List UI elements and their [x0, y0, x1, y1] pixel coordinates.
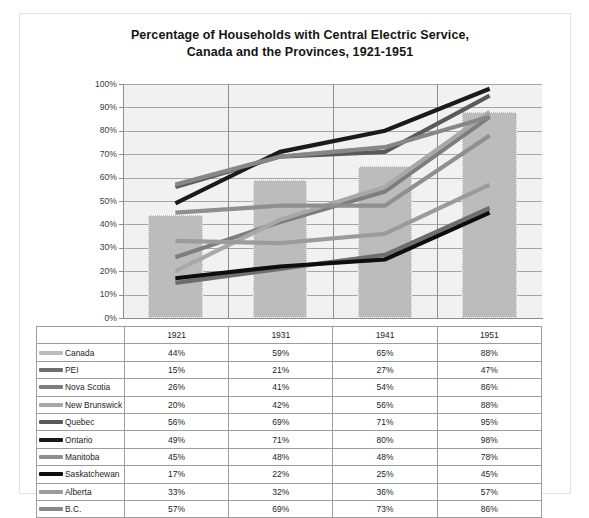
table-row: Nova Scotia26%41%54%86%	[37, 379, 542, 396]
legend-swatch-nova-scotia	[39, 385, 63, 389]
line-series-saskatchewan	[175, 213, 489, 279]
table-header-row: 1921193119411951	[37, 327, 542, 344]
y-axis-tick-label: 0%	[71, 313, 117, 323]
y-axis-tick-label: 100%	[71, 79, 117, 89]
legend-label-saskatchewan: Saskatchewan	[65, 469, 119, 479]
y-axis-tick-mark	[119, 295, 123, 296]
series-name-cell-pei: PEI	[37, 361, 125, 378]
data-cell: 36%	[333, 483, 437, 500]
data-cell: 86%	[437, 500, 541, 517]
series-name-cell-saskatchewan: Saskatchewan	[37, 466, 125, 483]
y-axis-tick-mark	[119, 271, 123, 272]
data-cell: 48%	[229, 448, 333, 465]
y-axis-tick-mark	[119, 248, 123, 249]
legend-swatch-pei	[39, 368, 63, 372]
data-cell: 49%	[124, 431, 228, 448]
data-cell: 27%	[333, 361, 437, 378]
series-name-cell-alberta: Alberta	[37, 483, 125, 500]
y-axis-tick-mark	[119, 131, 123, 132]
legend-swatch-alberta	[39, 490, 63, 494]
y-axis-tick-label: 80%	[71, 125, 117, 135]
legend-swatch-saskatchewan	[39, 472, 63, 476]
data-cell: 71%	[333, 413, 437, 430]
y-axis-tick-mark	[119, 154, 123, 155]
y-axis-tick-label: 20%	[71, 266, 117, 276]
line-series-new-brunswick	[175, 112, 489, 271]
table-row: Saskatchewan17%22%25%45%	[37, 466, 542, 483]
x-axis-category-label: 1921	[124, 327, 228, 344]
legend-swatch-quebec	[39, 420, 63, 424]
y-axis-tick-mark	[119, 318, 123, 319]
y-axis-tick-label: 60%	[71, 172, 117, 182]
data-cell: 47%	[437, 361, 541, 378]
legend-label-quebec: Quebec	[65, 417, 94, 427]
y-axis-tick-mark	[119, 224, 123, 225]
x-axis-category-label: 1951	[437, 327, 541, 344]
legend-label-new-brunswick: New Brunswick	[65, 400, 122, 410]
data-cell: 17%	[124, 466, 228, 483]
data-table: 1921193119411951Canada44%59%65%88%PEI15%…	[36, 326, 542, 518]
data-cell: 57%	[437, 483, 541, 500]
data-cell: 15%	[124, 361, 228, 378]
table-row: Quebec56%69%71%95%	[37, 413, 542, 430]
y-axis-tick-mark	[119, 107, 123, 108]
data-cell: 71%	[229, 431, 333, 448]
x-axis-category-label: 1931	[229, 327, 333, 344]
series-name-cell-manitoba: Manitoba	[37, 448, 125, 465]
series-name-cell-canada: Canada	[37, 344, 125, 361]
series-name-cell-ontario: Ontario	[37, 431, 125, 448]
data-cell: 54%	[333, 379, 437, 396]
legend-label-b-c: B.C.	[65, 504, 81, 514]
data-cell: 88%	[437, 344, 541, 361]
legend-swatch-b-c	[39, 507, 63, 511]
data-cell: 69%	[229, 413, 333, 430]
legend-label-canada: Canada	[65, 348, 94, 358]
data-cell: 32%	[229, 483, 333, 500]
data-cell: 25%	[333, 466, 437, 483]
y-axis-tick-label: 50%	[71, 196, 117, 206]
line-series-layer	[123, 84, 542, 318]
data-cell: 80%	[333, 431, 437, 448]
data-cell: 56%	[333, 396, 437, 413]
table-row: B.C.57%69%73%86%	[37, 500, 542, 517]
data-cell: 26%	[124, 379, 228, 396]
table-corner-cell	[37, 327, 125, 344]
data-cell: 20%	[124, 396, 228, 413]
legend-label-manitoba: Manitoba	[65, 452, 99, 462]
table-row: New Brunswick20%42%56%88%	[37, 396, 542, 413]
data-cell: 44%	[124, 344, 228, 361]
data-cell: 65%	[333, 344, 437, 361]
y-axis-tick-label: 70%	[71, 149, 117, 159]
legend-swatch-canada	[39, 351, 63, 355]
table-row: Manitoba45%48%48%78%	[37, 448, 542, 465]
data-cell: 42%	[229, 396, 333, 413]
data-cell: 98%	[437, 431, 541, 448]
line-series-nova-scotia	[175, 117, 489, 257]
series-name-cell-b-c: B.C.	[37, 500, 125, 517]
data-cell: 22%	[229, 466, 333, 483]
x-axis-category-label: 1941	[333, 327, 437, 344]
data-cell: 86%	[437, 379, 541, 396]
y-axis-tick-label: 10%	[71, 289, 117, 299]
y-axis-tick-mark	[119, 178, 123, 179]
y-axis-tick-label: 90%	[71, 102, 117, 112]
series-name-cell-new-brunswick: New Brunswick	[37, 396, 125, 413]
plot-area	[123, 84, 542, 318]
legend-swatch-ontario	[39, 438, 63, 442]
legend-label-ontario: Ontario	[65, 435, 92, 445]
legend-label-nova-scotia: Nova Scotia	[65, 382, 110, 392]
table-row: Alberta33%32%36%57%	[37, 483, 542, 500]
data-cell: 45%	[437, 466, 541, 483]
data-cell: 41%	[229, 379, 333, 396]
chart-title-line1: Percentage of Households with Central El…	[131, 28, 469, 42]
legend-label-alberta: Alberta	[65, 487, 92, 497]
x-axis-line	[123, 318, 543, 319]
legend-label-pei: PEI	[65, 365, 79, 375]
data-cell: 56%	[124, 413, 228, 430]
data-cell: 33%	[124, 483, 228, 500]
data-cell: 78%	[437, 448, 541, 465]
chart-title: Percentage of Households with Central El…	[60, 27, 540, 61]
legend-swatch-manitoba	[39, 455, 63, 459]
table-row: Canada44%59%65%88%	[37, 344, 542, 361]
